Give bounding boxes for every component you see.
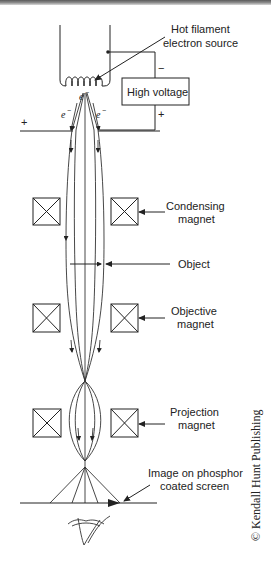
condensing-magnet-left	[33, 198, 60, 225]
object-label: Object	[178, 258, 210, 270]
screen-image-arrow	[108, 499, 120, 507]
screen-label-line1: Image on phosphor	[148, 467, 243, 479]
condensing-label-line1: Condensing	[166, 200, 225, 212]
projection-beam	[69, 381, 101, 461]
electron-right-sup: −	[102, 107, 106, 114]
proj-arrow-left	[78, 428, 79, 440]
electron-center-label: e	[79, 91, 84, 102]
condensing-label-line2: magnet	[178, 213, 215, 225]
filament-label-line2: electron source	[163, 37, 238, 49]
minus-terminal-label: −	[158, 62, 164, 74]
hv-wire-bottom	[100, 105, 155, 130]
filament-label-line1: Hot filament	[171, 23, 230, 35]
objective-magnet-right	[111, 304, 138, 332]
tem-diagram: Hot filament electron source − High volt…	[0, 0, 271, 569]
observer-eye-icon	[68, 516, 110, 545]
hv-wire-top	[108, 52, 155, 78]
objective-magnet-left	[33, 304, 60, 332]
objective-label-line2: magnet	[177, 318, 214, 330]
screen-leader-arrow	[124, 485, 150, 501]
electron-right-label: e	[96, 109, 101, 120]
anode-plus-label: +	[21, 116, 27, 128]
projection-label-line2: magnet	[178, 419, 215, 431]
image-fan	[50, 461, 120, 503]
condensing-magnet-right	[111, 198, 138, 225]
electron-left-label: e	[61, 109, 66, 120]
electron-gun-housing	[60, 25, 110, 86]
high-voltage-label: High voltage	[127, 86, 188, 98]
electron-beam	[66, 93, 104, 381]
beam-arrow-left-lower	[71, 340, 72, 352]
projection-magnet-right	[111, 409, 138, 437]
plus-terminal-label: +	[158, 108, 164, 120]
copyright-notice: © Kendall Hunt Publishing	[249, 410, 263, 541]
projection-magnet-left	[33, 409, 61, 437]
objective-label-line1: Objective	[171, 305, 217, 317]
beam-arrow-right-lower	[99, 340, 100, 352]
electron-left-sup: −	[67, 107, 71, 114]
electron-center-sup: −	[85, 89, 89, 96]
screen-label-line2: coated screen	[160, 480, 229, 492]
projection-label-line1: Projection	[170, 406, 219, 418]
